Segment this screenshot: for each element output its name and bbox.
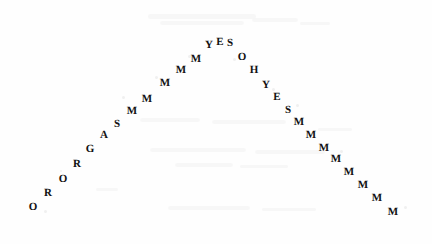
arc-letter: S [227, 38, 233, 49]
scanned-page: ORORGASMMMMMYESOHYESMMMMMMMM [0, 0, 432, 244]
arc-letter: H [250, 65, 259, 76]
arc-letter: A [100, 130, 108, 141]
arc-letter: R [73, 159, 81, 170]
arc-letter: M [372, 193, 382, 204]
arc-letter: R [44, 188, 52, 199]
arc-letter: O [29, 202, 38, 213]
arc-letter: M [344, 167, 354, 178]
arc-letter: E [273, 92, 280, 103]
arc-letter: O [238, 52, 247, 63]
arc-letter: M [176, 65, 186, 76]
arc-letter: M [191, 54, 201, 65]
arc-letter: M [358, 180, 368, 191]
arc-letter: M [388, 207, 398, 218]
shouted-dialogue-arc: ORORGASMMMMMYESOHYESMMMMMMMM [0, 0, 432, 244]
arc-letter: M [160, 78, 170, 89]
arc-letter: Y [262, 80, 270, 91]
arc-letter: S [114, 119, 120, 130]
arc-letter: Y [205, 40, 213, 51]
arc-letter: M [306, 130, 316, 141]
arc-letter: E [216, 37, 223, 48]
arc-letter: G [86, 144, 95, 155]
arc-letter: M [127, 106, 137, 117]
arc-letter: M [142, 94, 152, 105]
arc-letter: S [285, 105, 291, 116]
arc-letter: O [59, 174, 68, 185]
arc-letter: M [319, 143, 329, 154]
arc-letter: M [331, 154, 341, 165]
arc-letter: M [294, 117, 304, 128]
